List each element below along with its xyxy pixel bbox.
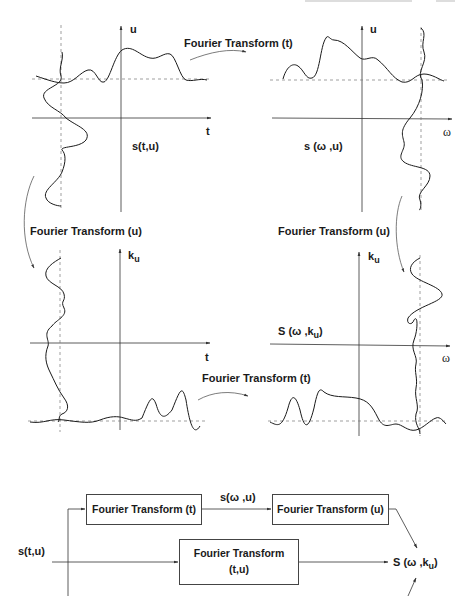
- signal-curve-horizontal: [270, 390, 446, 430]
- top-left-signal-label: s(t,u): [132, 141, 159, 152]
- top-left-u-axis-label: u: [130, 24, 137, 35]
- bottom-right-omega-axis-label: ω: [442, 352, 450, 364]
- box-fourier-transform-t-label: Fourier Transform (t): [92, 502, 196, 518]
- panel-bottom-left: [28, 249, 210, 432]
- box-fourier-transform-t: Fourier Transform (t): [86, 494, 202, 525]
- top-right-u-axis-label: u: [370, 24, 377, 35]
- box-fourier-transform-tu-line1: Fourier Transform: [194, 546, 284, 562]
- box-fourier-transform-tu-line2: (t,u): [229, 562, 249, 578]
- signal-curve-horizontal: [30, 391, 200, 430]
- bottom-left-t-axis-label: t: [205, 352, 209, 363]
- signal-curve-vertical: [44, 52, 88, 206]
- signal-curve-vertical: [46, 258, 68, 422]
- panel-bottom-right: [268, 252, 450, 436]
- right-transform-label: Fourier Transform (u): [278, 226, 390, 237]
- block-input-label: s(t,u): [18, 546, 45, 557]
- top-left-t-axis-label: t: [206, 126, 210, 137]
- bottom-transform-label: Fourier Transform (t): [202, 373, 311, 384]
- top-right-omega-axis-label: ω: [443, 126, 451, 138]
- bottom-right-signal-label: S (ω ,ku): [278, 326, 323, 337]
- figure-canvas: [0, 0, 471, 596]
- arrow-right-ft-u: [396, 196, 404, 272]
- bottom-left-ku-axis-label: ku: [128, 250, 140, 261]
- panel-top-right: [270, 26, 452, 212]
- left-transform-label: Fourier Transform (u): [30, 226, 142, 237]
- bottom-right-ku-axis-label: ku: [368, 251, 380, 262]
- arrow-top-ft-t: [190, 50, 246, 60]
- arrow-left-ft-u: [24, 176, 34, 268]
- block-intermediate-label: s(ω ,u): [220, 492, 256, 503]
- panel-top-left: [32, 25, 211, 212]
- omega-axis: [270, 344, 450, 346]
- box-fourier-transform-u: Fourier Transform (u): [272, 494, 389, 525]
- arrow-bottom-ft-t: [198, 393, 248, 400]
- box-fourier-transform-u-label: Fourier Transform (u): [277, 502, 384, 518]
- block-output-label: S (ω ,ku): [393, 557, 438, 568]
- top-right-signal-label: s (ω ,u): [304, 141, 343, 152]
- top-transform-label: Fourier Transform (t): [184, 38, 293, 49]
- box-fourier-transform-tu: Fourier Transform (t,u): [179, 539, 299, 585]
